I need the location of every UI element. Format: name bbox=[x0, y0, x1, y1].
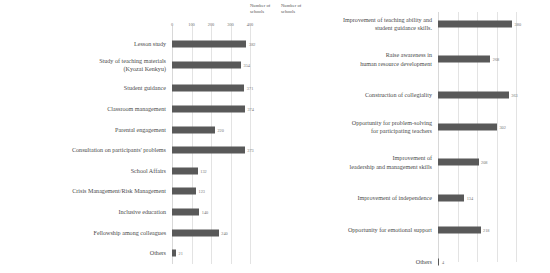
bar bbox=[172, 167, 198, 174]
x-axis-tick-label: 400 bbox=[247, 22, 254, 27]
bar-value-label: 134 bbox=[467, 195, 473, 200]
bar-value-label: 132 bbox=[200, 168, 206, 173]
bar bbox=[438, 124, 497, 131]
bar-value-label: 123 bbox=[198, 189, 204, 194]
bar bbox=[438, 259, 439, 266]
category-label: Opportunity for emotional support bbox=[274, 226, 432, 234]
bar-value-label: 382 bbox=[249, 42, 255, 47]
bar bbox=[172, 250, 176, 257]
bar bbox=[438, 21, 512, 28]
gridline bbox=[477, 12, 478, 262]
bar-value-label: 140 bbox=[202, 210, 208, 215]
plot-area-left: 0100200300400Lesson study382Study of tea… bbox=[172, 0, 250, 273]
category-label: Consultation on participants' problems bbox=[0, 146, 166, 154]
category-label: Construction of collegiality bbox=[274, 91, 432, 99]
bar bbox=[438, 56, 490, 63]
category-label: Crisis Management/Risk Management bbox=[0, 187, 166, 195]
bar-value-label: 4 bbox=[442, 260, 444, 265]
category-label: Others bbox=[274, 258, 432, 266]
bar bbox=[172, 126, 215, 133]
bar-value-label: 374 bbox=[247, 107, 253, 112]
bar bbox=[438, 194, 464, 201]
x-axis-tick-label: 300 bbox=[227, 22, 234, 27]
gridline bbox=[497, 12, 498, 262]
bar-value-label: 373 bbox=[247, 148, 253, 153]
category-label: Fellowship among colleagues bbox=[0, 228, 166, 236]
bar-value-label: 268 bbox=[493, 57, 499, 62]
category-label: Inclusive education bbox=[0, 208, 166, 216]
figure-two-bar-charts: Number of schools Number of schools 0100… bbox=[0, 0, 550, 273]
category-label: Classroom management bbox=[0, 105, 166, 113]
x-axis-tick-label: 100 bbox=[188, 22, 195, 27]
bar-value-label: 220 bbox=[217, 127, 223, 132]
category-label: Parental engagement bbox=[0, 125, 166, 133]
bar bbox=[172, 209, 199, 216]
bar bbox=[172, 85, 244, 92]
bar bbox=[172, 106, 245, 113]
bar bbox=[172, 229, 219, 236]
x-axis-tick-label: 200 bbox=[208, 22, 215, 27]
chart-panel-right: Improvement of teaching ability and stud… bbox=[275, 0, 550, 273]
bar-value-label: 363 bbox=[511, 92, 517, 97]
category-label: Student guidance bbox=[0, 84, 166, 92]
plot-area-right: Improvement of teaching ability and stud… bbox=[438, 0, 516, 273]
bar-value-label: 302 bbox=[499, 125, 505, 130]
bar bbox=[172, 188, 196, 195]
bar-value-label: 208 bbox=[481, 160, 487, 165]
bar-value-label: 371 bbox=[247, 86, 253, 91]
chart-panel-left: 0100200300400Lesson study382Study of tea… bbox=[0, 0, 275, 273]
category-label: Study of teaching materials (Kyozai Kenk… bbox=[0, 56, 166, 72]
gridline bbox=[516, 12, 517, 262]
category-label: Opportunity for problem-solving for part… bbox=[274, 119, 432, 135]
bar-value-label: 218 bbox=[483, 228, 489, 233]
x-axis-tick-label: 0 bbox=[171, 22, 173, 27]
category-label: Others bbox=[0, 249, 166, 257]
bar bbox=[438, 159, 479, 166]
bar bbox=[438, 227, 481, 234]
bar-value-label: 21 bbox=[179, 251, 183, 256]
bar-value-label: 240 bbox=[221, 230, 227, 235]
bar-value-label: 354 bbox=[244, 62, 250, 67]
bar bbox=[172, 61, 241, 68]
category-label: Raise awareness in human resource develo… bbox=[274, 51, 432, 67]
gridline bbox=[250, 26, 251, 264]
category-label: Improvement of teaching ability and stud… bbox=[274, 16, 432, 32]
category-label: Improvement of leadership and management… bbox=[274, 154, 432, 170]
gridline bbox=[458, 12, 459, 262]
bar-value-label: 380 bbox=[515, 22, 521, 27]
category-label: Improvement of independence bbox=[274, 194, 432, 202]
bar bbox=[172, 147, 245, 154]
category-label: School Affairs bbox=[0, 167, 166, 175]
bar bbox=[438, 91, 509, 98]
bar bbox=[172, 41, 246, 48]
category-label: Lesson study bbox=[0, 40, 166, 48]
gridline bbox=[438, 12, 439, 262]
